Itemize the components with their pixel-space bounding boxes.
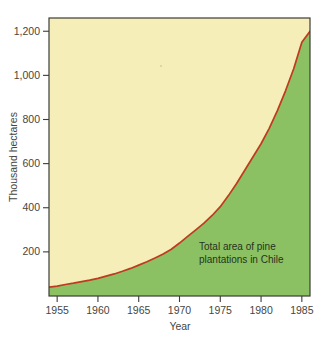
y-axis-title: Thousand hectares — [7, 112, 19, 202]
x-tick-label: 1955 — [45, 304, 69, 316]
y-tick-label: 1,000 — [14, 69, 40, 81]
y-tick-label: 200 — [22, 245, 40, 257]
chart-svg: 2004006008001,0001,200 19551960196519701… — [0, 0, 326, 343]
y-tick-label: 1,200 — [14, 25, 40, 37]
x-tick-label: 1980 — [249, 304, 273, 316]
x-tick-label: 1970 — [168, 304, 192, 316]
x-tick-label: 1965 — [127, 304, 151, 316]
y-tick-label: 400 — [22, 201, 40, 213]
y-tick-label: 800 — [22, 113, 40, 125]
y-tick-label: 600 — [22, 157, 40, 169]
chart-figure: 2004006008001,0001,200 19551960196519701… — [0, 0, 326, 343]
annotation-line-2: plantations in Chile — [199, 254, 284, 265]
annotation-line-1: Total area of pine — [199, 241, 276, 252]
x-tick-label: 1975 — [209, 304, 233, 316]
x-axis-title: Year — [169, 320, 191, 332]
scan-artifact-dot — [160, 65, 162, 67]
x-tick-label: 1960 — [86, 304, 110, 316]
x-tick-label: 1985 — [290, 304, 314, 316]
